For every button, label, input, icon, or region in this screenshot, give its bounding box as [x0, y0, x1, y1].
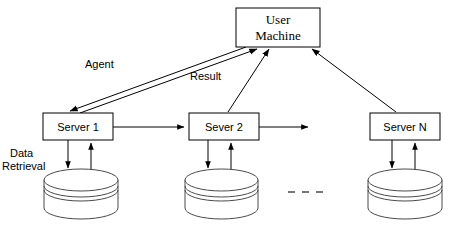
server-2-box[interactable]: Sever 2	[189, 113, 259, 140]
server-1-box[interactable]: Server 1	[43, 113, 113, 140]
diagram-canvas: User Machine Server 1 Sever 2 Server N	[0, 0, 464, 226]
user-machine-box[interactable]: User Machine	[236, 8, 320, 47]
edge-label-data-retrieval-line2: Retrieval	[2, 160, 45, 172]
server-1-label: Server 1	[57, 121, 99, 133]
database-n-cylinder[interactable]	[368, 169, 442, 219]
architecture-diagram-svg: User Machine Server 1 Sever 2 Server N	[0, 0, 464, 226]
database-1-cylinder[interactable]	[44, 169, 118, 219]
user-machine-label-line1: User	[266, 12, 291, 27]
edge-label-result: Result	[190, 70, 221, 82]
edge-label-agent: Agent	[85, 58, 114, 70]
edge-servern-to-usermachine	[312, 49, 396, 112]
edge-server2-to-usermachine	[228, 49, 269, 112]
server-n-box[interactable]: Server N	[370, 113, 440, 140]
server-n-label: Server N	[383, 121, 426, 133]
server-2-label: Sever 2	[205, 121, 243, 133]
edge-label-data-retrieval-line1: Data	[10, 147, 34, 159]
database-2-cylinder[interactable]	[185, 169, 258, 219]
user-machine-label-line2: Machine	[255, 28, 301, 43]
